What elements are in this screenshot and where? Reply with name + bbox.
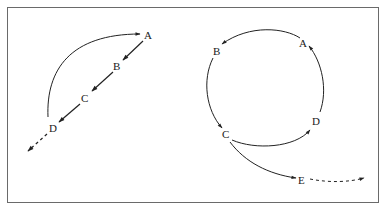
edge-a-to-b-arc xyxy=(222,30,300,44)
right-node-d-label: D xyxy=(312,115,320,127)
edge-c-to-d-arc xyxy=(232,130,310,146)
diagram-canvas: A B C D A B C D E xyxy=(0,0,385,212)
edge-e-dashed-extension xyxy=(310,178,364,182)
edge-c-to-e-branch xyxy=(230,142,296,178)
right-node-a-label: A xyxy=(299,37,307,49)
right-node-c-label: C xyxy=(222,128,229,140)
edge-b-to-c xyxy=(92,72,113,91)
edge-b-to-c-arc xyxy=(207,58,222,128)
right-node-b-label: B xyxy=(213,45,220,57)
edge-d-to-a-arc xyxy=(48,34,140,117)
left-node-b-label: B xyxy=(113,60,120,72)
right-diagram: A B C D E xyxy=(207,30,364,186)
edge-c-to-d xyxy=(59,104,80,122)
edge-a-to-b xyxy=(123,41,143,60)
left-node-d-label: D xyxy=(49,122,57,134)
left-node-a-label: A xyxy=(144,29,152,41)
left-node-c-label: C xyxy=(81,92,88,104)
left-diagram: A B C D xyxy=(28,29,152,151)
edge-d-to-a-arc xyxy=(309,46,324,112)
right-node-e-label: E xyxy=(298,174,305,186)
edge-d-dashed-extension xyxy=(28,134,47,151)
